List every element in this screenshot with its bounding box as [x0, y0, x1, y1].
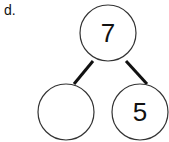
- connector-right: [126, 61, 147, 84]
- connector-left: [74, 61, 93, 84]
- part-left-circle[interactable]: [38, 84, 94, 140]
- part-right-value: 5: [133, 97, 147, 127]
- number-bond-diagram: 7 5: [0, 0, 169, 142]
- whole-value: 7: [101, 18, 115, 48]
